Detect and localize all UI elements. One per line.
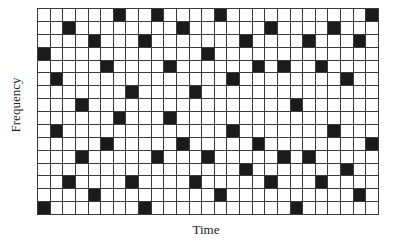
grid-cell: [164, 22, 177, 35]
filled-cell: [76, 151, 89, 164]
grid-cell: [139, 48, 152, 61]
grid-cell: [265, 112, 278, 125]
grid-cell: [38, 189, 51, 202]
grid-cell: [164, 176, 177, 189]
grid-cell: [139, 112, 152, 125]
grid-cell: [190, 99, 203, 112]
filled-cell: [152, 151, 165, 164]
grid-cell: [366, 151, 379, 164]
grid-cell: [354, 22, 367, 35]
grid-cell: [354, 9, 367, 22]
grid-cell: [51, 48, 64, 61]
grid-cell: [227, 189, 240, 202]
grid-cell: [265, 151, 278, 164]
grid-cell: [328, 99, 341, 112]
grid-cell: [190, 125, 203, 138]
grid-cell: [190, 48, 203, 61]
grid-cell: [328, 164, 341, 177]
grid-cell: [366, 48, 379, 61]
grid-cell: [316, 202, 329, 215]
grid-cell: [38, 9, 51, 22]
grid-cell: [366, 86, 379, 99]
grid-cell: [38, 125, 51, 138]
grid-cell: [303, 48, 316, 61]
grid-cell: [278, 125, 291, 138]
grid-cell: [63, 125, 76, 138]
grid-cell: [240, 73, 253, 86]
grid-cell: [265, 189, 278, 202]
grid-cell: [253, 48, 266, 61]
grid-cell: [291, 189, 304, 202]
grid-cell: [177, 125, 190, 138]
filled-cell: [177, 22, 190, 35]
grid-cell: [366, 202, 379, 215]
grid-cell: [316, 151, 329, 164]
grid-cell: [215, 151, 228, 164]
grid-cell: [190, 164, 203, 177]
filled-cell: [51, 73, 64, 86]
grid-cell: [316, 86, 329, 99]
grid-cell: [152, 112, 165, 125]
grid-cell: [126, 164, 139, 177]
grid-cell: [291, 164, 304, 177]
filled-cell: [101, 61, 114, 74]
grid-cell: [341, 202, 354, 215]
filled-cell: [227, 125, 240, 138]
grid-cell: [227, 164, 240, 177]
grid-cell: [215, 99, 228, 112]
grid-cell: [303, 61, 316, 74]
grid-cell: [63, 202, 76, 215]
grid-cell: [152, 164, 165, 177]
grid-cell: [253, 151, 266, 164]
filled-cell: [253, 138, 266, 151]
grid-cell: [341, 138, 354, 151]
grid-cell: [278, 189, 291, 202]
grid-cell: [253, 73, 266, 86]
grid-cell: [341, 189, 354, 202]
filled-cell: [316, 61, 329, 74]
grid-cell: [139, 164, 152, 177]
grid-cell: [202, 202, 215, 215]
grid-cell: [354, 138, 367, 151]
grid-cell: [126, 61, 139, 74]
grid-cell: [139, 61, 152, 74]
grid-cell: [328, 61, 341, 74]
grid-cell: [89, 86, 102, 99]
grid-cell: [303, 189, 316, 202]
grid-cell: [240, 48, 253, 61]
grid-cell: [303, 73, 316, 86]
grid-cell: [190, 151, 203, 164]
filled-cell: [328, 125, 341, 138]
grid-cell: [164, 86, 177, 99]
filled-cell: [227, 73, 240, 86]
grid-cell: [341, 99, 354, 112]
grid-cell: [152, 73, 165, 86]
grid-cell: [291, 125, 304, 138]
grid-cell: [89, 176, 102, 189]
filled-cell: [190, 176, 203, 189]
grid-cell: [265, 48, 278, 61]
filled-cell: [139, 202, 152, 215]
filled-cell: [265, 176, 278, 189]
grid-cell: [51, 164, 64, 177]
grid-cell: [291, 22, 304, 35]
grid-cell: [354, 86, 367, 99]
grid-cell: [291, 9, 304, 22]
grid-cell: [291, 176, 304, 189]
grid-cell: [240, 9, 253, 22]
grid-cell: [114, 189, 127, 202]
grid-cell: [240, 99, 253, 112]
grid-cell: [51, 61, 64, 74]
grid-cell: [328, 176, 341, 189]
grid-cell: [126, 9, 139, 22]
grid-cell: [76, 138, 89, 151]
grid-cell: [253, 99, 266, 112]
grid-cell: [76, 48, 89, 61]
filled-cell: [366, 9, 379, 22]
grid-cell: [38, 22, 51, 35]
grid-cell: [354, 176, 367, 189]
grid-cell: [227, 35, 240, 48]
grid-cell: [215, 86, 228, 99]
grid-cell: [76, 9, 89, 22]
filled-cell: [202, 151, 215, 164]
